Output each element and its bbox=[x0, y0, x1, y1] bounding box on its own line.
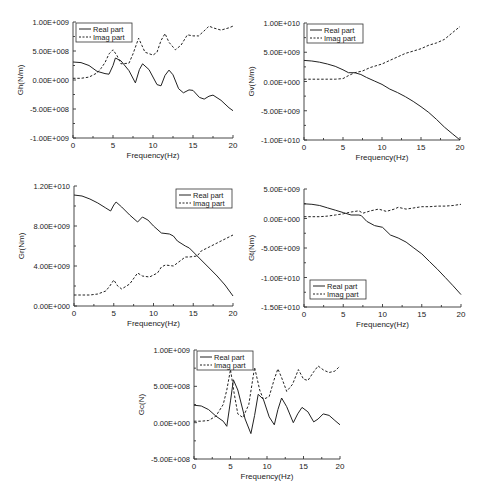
series-solid bbox=[73, 58, 233, 111]
legend: Real partImag part bbox=[307, 24, 363, 43]
chart-gv: 05101520-1.00E+010-5.00E+0090.00E+0005.0… bbox=[247, 19, 465, 162]
y-tick-label: 5.00E+008 bbox=[154, 382, 191, 391]
x-tick-label: 5 bbox=[341, 143, 346, 152]
legend-label: Imag part bbox=[193, 199, 226, 208]
series-solid bbox=[74, 195, 233, 296]
x-tick-label: 0 bbox=[72, 309, 77, 318]
y-tick-label: 0.00E+000 bbox=[34, 302, 71, 311]
x-tick-label: 10 bbox=[378, 143, 387, 152]
y-axis-label: Gr(Nm) bbox=[17, 232, 26, 259]
y-tick-label: 8.00E+009 bbox=[34, 222, 71, 231]
y-tick-label: 1.20E+010 bbox=[34, 182, 71, 191]
x-tick-label: 20 bbox=[229, 309, 238, 318]
y-tick-label: 5.00E+009 bbox=[264, 48, 301, 57]
y-tick-label: -1.00E+010 bbox=[261, 136, 300, 145]
x-tick-label: 0 bbox=[302, 310, 307, 319]
y-tick-label: 4.00E+009 bbox=[34, 262, 71, 271]
legend-label: Imag part bbox=[93, 33, 126, 42]
legend: Real partImag part bbox=[176, 189, 232, 208]
chart-gc: 05101520-5.00E+0080.00E+0005.00E+0081.00… bbox=[137, 346, 345, 481]
y-tick-label: -5.00E+008 bbox=[30, 105, 69, 114]
chart-gt: 05101520-1.50E+010-1.00E+010-5.00E+0090.… bbox=[247, 185, 466, 329]
x-tick-label: 10 bbox=[149, 141, 158, 150]
y-tick-label: -1.50E+010 bbox=[261, 303, 300, 312]
x-axis-label: Frequency(Hz) bbox=[127, 151, 180, 160]
x-tick-label: 5 bbox=[228, 462, 233, 471]
legend-label: Imag part bbox=[324, 34, 357, 43]
chart-gh: 05101520-1.00E+009-5.00E+0080.00E+0005.0… bbox=[16, 18, 238, 160]
x-tick-label: 15 bbox=[189, 309, 198, 318]
y-tick-label: 0.00E+000 bbox=[264, 78, 301, 87]
legend: Real partImag part bbox=[310, 280, 366, 299]
x-axis-label: Frequency(Hz) bbox=[127, 319, 180, 328]
series-dashed bbox=[304, 204, 461, 216]
y-tick-label: 0.00E+000 bbox=[33, 76, 70, 85]
y-tick-label: 5.00E+009 bbox=[264, 185, 301, 194]
x-tick-label: 0 bbox=[302, 143, 307, 152]
legend-label: Imag part bbox=[214, 361, 247, 370]
y-axis-label: Gt(Nm) bbox=[247, 235, 256, 262]
y-tick-label: -1.00E+010 bbox=[261, 274, 300, 283]
chart-gr: 051015200.00E+0004.00E+0098.00E+0091.20E… bbox=[17, 182, 238, 328]
x-axis-label: Frequency(Hz) bbox=[356, 320, 409, 329]
legend: Real partImag part bbox=[76, 23, 132, 42]
x-tick-label: 15 bbox=[417, 143, 426, 152]
y-tick-label: 1.00E+010 bbox=[264, 19, 301, 28]
x-tick-label: 5 bbox=[341, 310, 346, 319]
x-tick-label: 10 bbox=[149, 309, 158, 318]
x-tick-label: 20 bbox=[336, 462, 345, 471]
x-tick-label: 0 bbox=[71, 141, 76, 150]
x-tick-label: 10 bbox=[263, 462, 272, 471]
x-tick-label: 10 bbox=[378, 310, 387, 319]
y-axis-label: Gh(N/m) bbox=[16, 64, 25, 95]
y-tick-label: -5.00E+009 bbox=[261, 107, 300, 116]
x-tick-label: 20 bbox=[456, 143, 465, 152]
x-tick-label: 0 bbox=[192, 462, 197, 471]
x-tick-label: 15 bbox=[417, 310, 426, 319]
series-dashed bbox=[74, 235, 233, 295]
x-axis-label: Frequency(Hz) bbox=[356, 153, 409, 162]
series-solid bbox=[304, 60, 460, 140]
y-tick-label: -5.00E+008 bbox=[151, 455, 190, 464]
y-tick-label: 5.00E+008 bbox=[33, 47, 70, 56]
x-tick-label: 5 bbox=[111, 141, 116, 150]
series-solid bbox=[194, 380, 340, 434]
y-axis-label: Gc(N) bbox=[137, 394, 146, 416]
x-axis-label: Frequency(Hz) bbox=[241, 472, 294, 481]
x-tick-label: 15 bbox=[299, 462, 308, 471]
x-tick-label: 20 bbox=[229, 141, 238, 150]
legend-label: Imag part bbox=[327, 290, 360, 299]
figure-canvas: 05101520-1.00E+009-5.00E+0080.00E+0005.0… bbox=[0, 0, 481, 496]
y-tick-label: -5.00E+009 bbox=[261, 244, 300, 253]
y-tick-label: 0.00E+000 bbox=[264, 215, 301, 224]
x-tick-label: 15 bbox=[189, 141, 198, 150]
legend: Real partImag part bbox=[197, 351, 253, 370]
series-dashed bbox=[194, 366, 340, 421]
y-tick-label: 1.00E+009 bbox=[154, 346, 191, 355]
x-tick-label: 5 bbox=[112, 309, 117, 318]
y-tick-label: -1.00E+009 bbox=[30, 134, 69, 143]
y-axis-label: Gv(N/m) bbox=[247, 66, 256, 97]
y-tick-label: 0.00E+000 bbox=[154, 419, 191, 428]
x-tick-label: 20 bbox=[457, 310, 466, 319]
y-tick-label: 1.00E+009 bbox=[33, 18, 70, 27]
